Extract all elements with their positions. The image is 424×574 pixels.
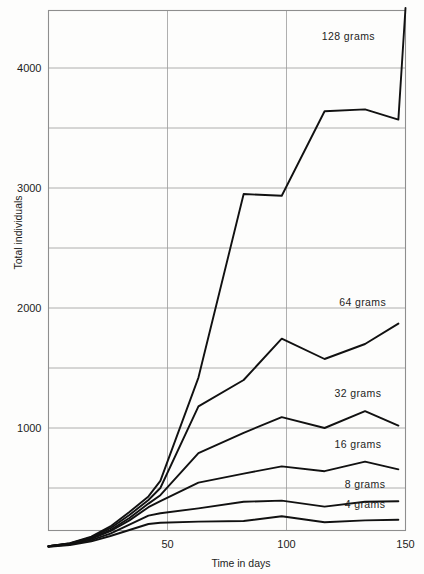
gridlines bbox=[49, 11, 406, 531]
data-series-lines bbox=[49, 8, 406, 547]
series-line-64-grams bbox=[49, 324, 399, 547]
plot-area-frame bbox=[49, 11, 406, 531]
series-inline-labels: 128 grams64 grams32 grams16 grams8 grams… bbox=[322, 30, 386, 510]
x-tick-label: 50 bbox=[161, 538, 173, 550]
series-label-32-grams: 32 grams bbox=[334, 387, 381, 399]
series-label-4-grams: 4 grams bbox=[345, 498, 386, 510]
series-label-128-grams: 128 grams bbox=[322, 30, 375, 42]
x-tick-label: 100 bbox=[277, 538, 295, 550]
y-axis-title: Total individuals bbox=[12, 195, 24, 269]
series-label-8-grams: 8 grams bbox=[345, 478, 386, 490]
series-label-16-grams: 16 grams bbox=[334, 438, 381, 450]
x-tick-label: 150 bbox=[396, 538, 414, 550]
y-tick-label: 2000 bbox=[17, 302, 41, 314]
series-label-64-grams: 64 grams bbox=[339, 296, 386, 308]
line-chart: 1000200030004000 50100150 128 grams64 gr… bbox=[0, 0, 424, 574]
y-tick-label: 1000 bbox=[17, 422, 41, 434]
y-tick-label: 3000 bbox=[17, 182, 41, 194]
y-tick-label: 4000 bbox=[17, 62, 41, 74]
x-axis-tick-labels: 50100150 bbox=[161, 538, 414, 550]
x-axis-title: Time in days bbox=[211, 557, 270, 569]
chart-figure: 1000200030004000 50100150 128 grams64 gr… bbox=[0, 0, 424, 574]
